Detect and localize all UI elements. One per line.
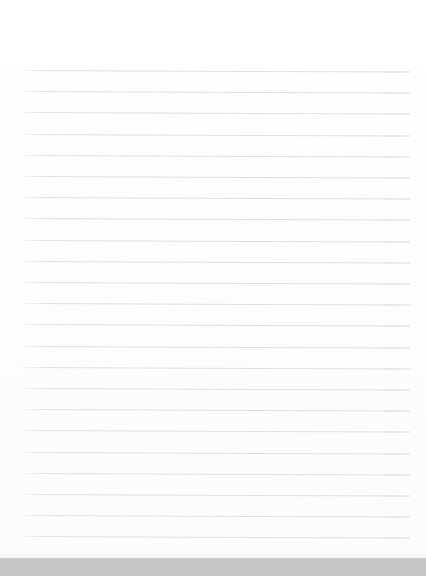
page-footer-text [23,540,363,554]
band-top-highlight [0,558,426,560]
background-surface-band [0,558,426,576]
page-header-text [23,28,410,46]
page-writing-area[interactable] [23,64,410,542]
document-viewport [0,0,426,576]
paper-sheet[interactable] [0,0,426,558]
